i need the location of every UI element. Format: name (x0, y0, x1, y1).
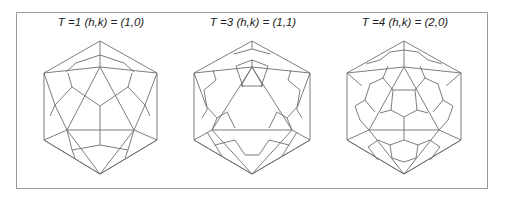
edge-line (44, 140, 100, 174)
edge-line (269, 112, 277, 128)
edge-line (448, 106, 453, 120)
edge-line (72, 145, 100, 150)
edge-line (252, 130, 292, 174)
icosahedron-t1 (44, 41, 157, 174)
edge-line (446, 73, 461, 86)
edge-line (417, 110, 428, 113)
edge-line (68, 73, 72, 87)
edge-line (289, 132, 297, 145)
edge-line (44, 73, 55, 105)
edge-line (208, 108, 217, 118)
edge-line (44, 130, 67, 140)
edge-line (202, 108, 208, 118)
edge-line (404, 140, 461, 174)
edge-line (55, 105, 67, 130)
edge-line (438, 84, 443, 100)
edge-line (212, 130, 252, 174)
edge-line (347, 73, 362, 86)
edge-line (128, 73, 132, 87)
edge-line (360, 120, 369, 130)
edge-line (355, 106, 360, 120)
edge-line (217, 112, 227, 118)
edge-line (236, 60, 252, 66)
edge-line (355, 100, 365, 106)
edge-line (100, 145, 128, 150)
edge-line (204, 80, 216, 90)
edge-line (433, 100, 443, 112)
edge-line (125, 150, 128, 158)
edge-line (287, 108, 296, 118)
edge-line (415, 90, 417, 110)
edge-line (297, 90, 300, 108)
edge-line (100, 140, 157, 174)
edge-line (420, 66, 425, 78)
edge-line (212, 67, 252, 130)
edge-line (439, 130, 461, 140)
edge-line (288, 80, 300, 90)
edge-line (207, 132, 215, 145)
edge-line (391, 110, 404, 117)
edge-line (213, 70, 216, 80)
edge-line (76, 55, 100, 63)
edge-line (383, 78, 393, 90)
edge-line (404, 50, 418, 52)
edge-line (194, 73, 207, 108)
edge-line (128, 87, 145, 105)
edge-line (404, 140, 418, 145)
edge-line (100, 87, 128, 106)
edge-line (235, 140, 245, 155)
edge-line (366, 60, 380, 64)
edge-line (204, 90, 207, 108)
icosahedron-t4 (347, 41, 461, 174)
edge-line (415, 78, 425, 90)
edge-line (365, 100, 375, 112)
hexagon-outline (44, 41, 157, 174)
edge-line (100, 67, 134, 130)
edge-line (430, 140, 440, 147)
edge-line (252, 140, 310, 174)
edge-line (128, 130, 134, 150)
edge-line (368, 140, 378, 147)
edge-line (252, 60, 268, 66)
edge-line (439, 120, 448, 130)
edge-line (369, 130, 404, 174)
icosahedron-t3 (194, 41, 310, 174)
edge-line (67, 67, 100, 130)
edge-line (380, 110, 391, 113)
edge-line (50, 105, 55, 116)
edge-line (259, 140, 269, 155)
edge-line (404, 130, 439, 174)
edge-line (67, 130, 100, 174)
edge-line (252, 67, 292, 130)
edge-line (134, 130, 157, 140)
edge-line (100, 55, 124, 63)
edge-line (347, 130, 369, 140)
edge-line (145, 105, 150, 116)
edge-line (404, 110, 417, 117)
edge-line (134, 105, 145, 130)
edge-line (288, 70, 291, 80)
edge-line (425, 78, 438, 84)
edge-line (443, 100, 453, 106)
edge-line (416, 145, 418, 158)
edge-line (404, 67, 439, 130)
edge-line (100, 130, 134, 174)
edge-line (370, 78, 383, 84)
edge-line (390, 145, 392, 158)
edge-line (227, 112, 235, 128)
edge-line (428, 60, 442, 64)
edge-line (365, 84, 370, 100)
icosahedra-diagram (0, 0, 506, 198)
edge-line (145, 73, 157, 105)
edge-line (369, 67, 404, 130)
edge-line (277, 112, 287, 118)
edge-line (55, 87, 72, 105)
edge-line (391, 90, 393, 110)
edge-line (390, 140, 404, 145)
edge-line (297, 73, 310, 108)
edge-line (383, 66, 388, 78)
edge-line (347, 140, 404, 174)
edge-line (296, 108, 302, 118)
edge-line (72, 87, 100, 106)
edge-line (194, 140, 252, 174)
